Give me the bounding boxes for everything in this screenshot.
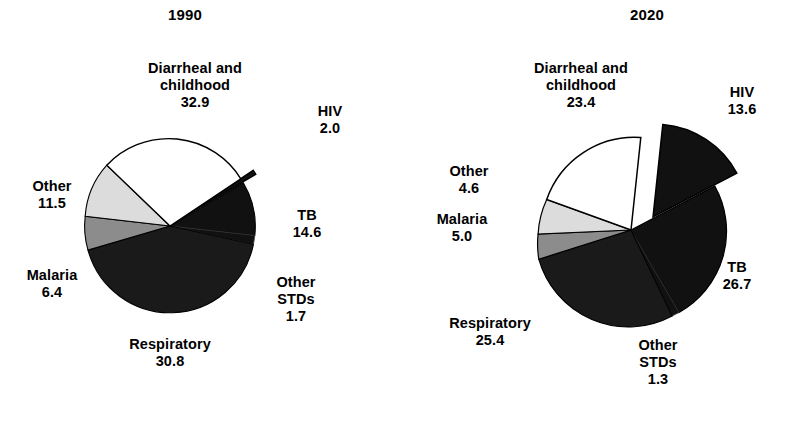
label-tb-value: 26.7 bbox=[701, 276, 773, 293]
label-diarrheal-line1: Diarrheal and bbox=[148, 60, 242, 76]
label-other-stds-value: 1.3 bbox=[618, 371, 698, 388]
label-other-stds-line2: STDs bbox=[639, 354, 676, 370]
label-respiratory-value: 30.8 bbox=[100, 353, 240, 370]
label-diarrheal-1990: Diarrheal and childhood 32.9 bbox=[110, 60, 280, 111]
label-other-stds-line2: STDs bbox=[277, 291, 314, 307]
label-malaria-text: Malaria bbox=[437, 211, 488, 227]
label-diarrheal-line2: childhood bbox=[160, 77, 230, 93]
label-hiv-value: 13.6 bbox=[706, 101, 778, 118]
label-respiratory-text: Respiratory bbox=[129, 336, 211, 352]
pie-chart-figure: 1990 Diarrheal and child bbox=[0, 0, 792, 421]
label-other-stds-line1: Other bbox=[638, 337, 677, 353]
label-tb-1990: TB 14.6 bbox=[275, 207, 339, 241]
label-respiratory-value: 25.4 bbox=[418, 332, 562, 349]
label-malaria-value: 5.0 bbox=[414, 228, 510, 245]
label-other-1990: Other 11.5 bbox=[14, 178, 90, 212]
label-other-text: Other bbox=[449, 163, 488, 179]
label-tb-2020: TB 26.7 bbox=[701, 259, 773, 293]
label-hiv-value: 2.0 bbox=[300, 120, 360, 137]
label-other-stds-value: 1.7 bbox=[258, 308, 334, 325]
label-malaria-text: Malaria bbox=[27, 267, 78, 283]
label-hiv-text: HIV bbox=[730, 84, 754, 100]
label-diarrheal-value: 32.9 bbox=[110, 94, 280, 111]
label-other-stds-2020: Other STDs 1.3 bbox=[618, 337, 698, 388]
label-malaria-value: 6.4 bbox=[8, 284, 96, 301]
label-malaria-1990: Malaria 6.4 bbox=[8, 267, 96, 301]
label-hiv-2020: HIV 13.6 bbox=[706, 84, 778, 118]
label-hiv-1990: HIV 2.0 bbox=[300, 103, 360, 137]
label-diarrheal-2020: Diarrheal and childhood 23.4 bbox=[496, 60, 666, 111]
label-respiratory-text: Respiratory bbox=[449, 315, 531, 331]
label-other-value: 4.6 bbox=[428, 180, 510, 197]
label-respiratory-2020: Respiratory 25.4 bbox=[418, 315, 562, 349]
panel-2020: 2020 Diarrheal and childhood 23. bbox=[396, 0, 792, 421]
label-diarrheal-line2: childhood bbox=[546, 77, 616, 93]
label-tb-text: TB bbox=[297, 207, 317, 223]
label-other-2020: Other 4.6 bbox=[428, 163, 510, 197]
label-respiratory-1990: Respiratory 30.8 bbox=[100, 336, 240, 370]
label-tb-value: 14.6 bbox=[275, 224, 339, 241]
label-other-stds-1990: Other STDs 1.7 bbox=[258, 274, 334, 325]
label-diarrheal-line1: Diarrheal and bbox=[534, 60, 628, 76]
panel-1990: 1990 Diarrheal and child bbox=[0, 0, 396, 421]
label-malaria-2020: Malaria 5.0 bbox=[414, 211, 510, 245]
label-tb-text: TB bbox=[727, 259, 747, 275]
label-other-text: Other bbox=[32, 178, 71, 194]
label-other-value: 11.5 bbox=[14, 195, 90, 212]
label-hiv-text: HIV bbox=[318, 103, 342, 119]
label-diarrheal-value: 23.4 bbox=[496, 94, 666, 111]
label-other-stds-line1: Other bbox=[276, 274, 315, 290]
